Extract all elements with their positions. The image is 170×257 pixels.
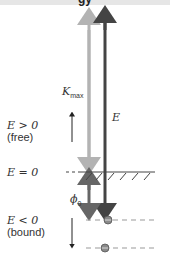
bound-level-2 xyxy=(86,244,155,252)
phi-label: ϕ0 xyxy=(70,193,81,207)
energy-label: E xyxy=(112,111,120,124)
kmax-label: Kmax xyxy=(62,85,83,99)
bound-label: (bound) xyxy=(7,226,45,238)
zero-energy-line xyxy=(66,172,155,180)
bound-level-1 xyxy=(86,216,155,224)
free-label: (free) xyxy=(7,131,33,143)
e-zero-label: E = 0 xyxy=(7,166,38,179)
